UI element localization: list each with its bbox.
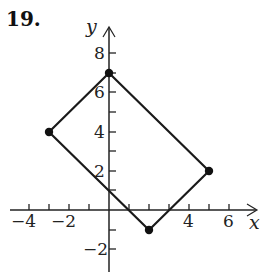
y-axis-label: y xyxy=(85,15,97,37)
x-tick-label: −2 xyxy=(51,211,76,231)
x-tick-label: −4 xyxy=(11,211,36,231)
y-tick-label: −2 xyxy=(83,239,108,259)
x-tick-label: 4 xyxy=(183,211,194,231)
y-axis-ticks xyxy=(109,53,116,249)
vertex-point xyxy=(205,167,213,175)
vertex-point xyxy=(105,69,113,77)
coordinate-plane-diagram: 19. −4 −2 4 6 x xyxy=(0,0,277,274)
vertex-point xyxy=(45,128,53,136)
y-tick-label: 8 xyxy=(94,43,105,63)
problem-number: 19. xyxy=(6,7,41,31)
y-axis: 8 6 4 2 −2 y xyxy=(83,15,116,272)
x-tick-label: 6 xyxy=(223,211,234,231)
y-tick-label: 4 xyxy=(94,122,105,142)
x-axis-label: x xyxy=(249,211,260,233)
vertex-point xyxy=(145,226,153,234)
x-axis: −4 −2 4 6 x xyxy=(10,204,260,233)
